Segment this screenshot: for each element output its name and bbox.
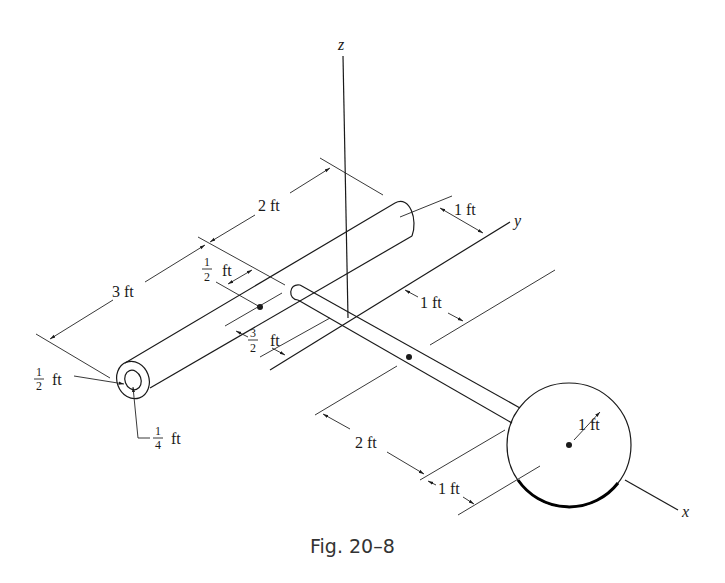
dim-tube-length: 3 ft xyxy=(50,245,205,339)
figure-canvas: z y x 1 ft xyxy=(0,0,725,583)
svg-text:2: 2 xyxy=(250,341,256,355)
rod-center-of-mass xyxy=(406,354,412,360)
dim-tube-to-yaxis: 2 ft xyxy=(210,168,330,242)
extension-lines xyxy=(36,158,555,515)
svg-text:x: x xyxy=(681,503,689,520)
svg-text:ft: ft xyxy=(222,262,232,279)
svg-text:2 ft: 2 ft xyxy=(258,197,280,214)
svg-text:4: 4 xyxy=(155,438,161,452)
dim-tube-yaxis-offset: 1 ft xyxy=(440,201,483,233)
x-axis: x xyxy=(625,480,689,520)
svg-text:y: y xyxy=(512,212,522,230)
figure-caption: Fig. 20–8 xyxy=(310,535,395,557)
dim-rod-length: 2 ft xyxy=(323,414,424,474)
svg-text:3: 3 xyxy=(250,326,256,340)
dim-tube-inner-radius: 1 4 ft xyxy=(133,387,181,452)
svg-text:1: 1 xyxy=(204,255,210,269)
disk-center xyxy=(566,442,572,448)
svg-text:1 ft: 1 ft xyxy=(420,294,442,311)
dim-rod-offset: 1 ft xyxy=(405,290,463,321)
svg-text:2: 2 xyxy=(36,379,42,393)
svg-text:1 ft: 1 ft xyxy=(578,416,600,433)
dim-tube-cg-offset: 1 2 ft xyxy=(202,255,252,284)
svg-text:ft: ft xyxy=(52,371,62,388)
dim-tube-outer-radius: 1 2 ft xyxy=(34,365,124,393)
disk: 1 ft xyxy=(507,383,631,507)
rod xyxy=(291,285,520,423)
y-axis: y xyxy=(270,212,522,370)
svg-text:1: 1 xyxy=(36,365,42,379)
svg-text:2: 2 xyxy=(204,270,210,284)
hollow-tube xyxy=(111,201,414,403)
svg-text:1 ft: 1 ft xyxy=(438,480,460,497)
svg-text:1: 1 xyxy=(155,424,161,438)
isometric-diagram: z y x 1 ft xyxy=(0,0,725,583)
dim-disk-offset: 1 ft xyxy=(428,480,474,504)
dim-tube-lateral: 3 2 ft xyxy=(236,326,285,355)
svg-text:1 ft: 1 ft xyxy=(454,201,476,218)
svg-text:ft: ft xyxy=(270,332,280,349)
svg-text:2 ft: 2 ft xyxy=(355,434,377,451)
svg-text:z: z xyxy=(337,36,345,53)
svg-text:ft: ft xyxy=(171,430,181,447)
svg-text:3 ft: 3 ft xyxy=(112,283,134,300)
